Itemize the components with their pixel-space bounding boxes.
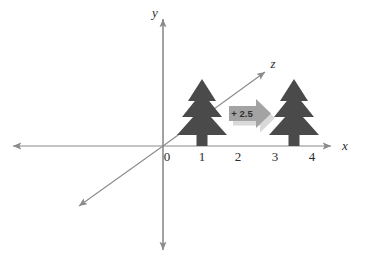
coordinate-diagram: y x z 0 1 2 3 4 (0, 0, 369, 267)
tick-label-0: 0 (164, 149, 171, 164)
original-tree (177, 79, 227, 146)
x-tick-labels: 0 1 2 3 4 (164, 149, 316, 164)
translation-arrow: + 2.5 (229, 99, 275, 133)
tick-label-2: 2 (235, 149, 242, 164)
translated-tree (269, 79, 319, 146)
translation-amount-label: + 2.5 (231, 108, 253, 119)
tick-label-1: 1 (199, 149, 206, 164)
tree-tier-top (280, 79, 308, 101)
x-axis-label: x (341, 138, 348, 153)
z-axis-label: z (269, 56, 275, 71)
z-axis-line-lower (79, 146, 163, 206)
tree-trunk (289, 135, 300, 146)
tree-trunk (197, 135, 208, 146)
figure-canvas: y x z 0 1 2 3 4 (0, 0, 369, 267)
y-axis: y (150, 5, 163, 250)
tick-label-3: 3 (272, 149, 279, 164)
tick-label-4: 4 (309, 149, 316, 164)
tree-tier-top (188, 79, 216, 101)
y-axis-label: y (150, 5, 158, 20)
z-axis: z (79, 56, 276, 206)
